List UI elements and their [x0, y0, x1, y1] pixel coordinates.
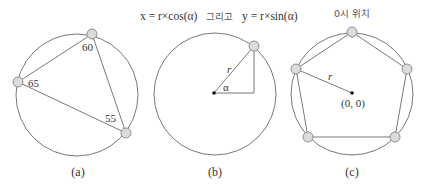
angle-label-55: 55 — [105, 112, 117, 124]
angle-label-65: 65 — [28, 77, 40, 89]
formula: x = r×cos(α) 그리고 y = r×sin(α) — [140, 10, 298, 23]
panel-c-title: 0시 위치 — [334, 8, 370, 19]
radius-label: r — [328, 70, 333, 82]
formula-join: 그리고 — [206, 11, 233, 22]
radius-label: r — [227, 63, 232, 75]
triangle-edge — [18, 34, 92, 82]
node — [13, 77, 23, 87]
center-dot — [350, 91, 354, 95]
angle-label-60: 60 — [82, 41, 94, 53]
node — [347, 27, 357, 37]
node — [87, 29, 97, 39]
node — [402, 64, 412, 74]
caption-b: (b) — [208, 165, 222, 179]
center-dot — [212, 91, 216, 95]
formula-y: y = r×sin(α) — [242, 10, 298, 23]
radius-line — [214, 46, 254, 93]
formula-x: x = r×cos(α) — [140, 10, 197, 23]
node — [291, 64, 301, 74]
node — [121, 128, 131, 138]
node — [390, 132, 400, 142]
node — [303, 132, 313, 142]
figure: 60 65 55 (a) x = r×cos(α) 그리고 y = r×sin(… — [0, 0, 426, 186]
caption-c: (c) — [345, 165, 358, 179]
triangle-edge — [18, 82, 126, 133]
panel-a: 60 65 55 (a) — [13, 29, 138, 179]
circle-a — [16, 34, 138, 156]
panel-c: 0시 위치 r (0, 0) (c) — [291, 8, 413, 179]
caption-a: (a) — [71, 165, 84, 179]
angle-label: α — [223, 81, 229, 93]
panel-b: x = r×cos(α) 그리고 y = r×sin(α) r α (b) — [140, 10, 298, 179]
node — [249, 41, 259, 51]
origin-label: (0, 0) — [341, 97, 365, 110]
radius-line — [296, 69, 352, 93]
